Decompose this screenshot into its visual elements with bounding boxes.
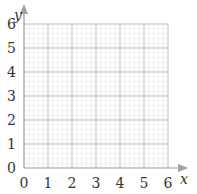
x-tick-label: 2 [68, 175, 77, 191]
y-tick-label: 4 [7, 64, 16, 80]
major-grid [24, 24, 168, 168]
x-tick-label: 3 [92, 175, 101, 191]
y-tick-label: 3 [7, 88, 16, 104]
y-tick-label: 1 [7, 136, 16, 152]
y-tick-labels: 0123456 [7, 16, 16, 176]
x-tick-label: 1 [44, 175, 53, 191]
axes [20, 4, 188, 172]
x-tick-label: 5 [140, 175, 149, 191]
y-tick-label: 2 [7, 112, 16, 128]
coordinate-grid-chart: 0123456 0123456 x y [0, 0, 197, 194]
x-tick-label: 0 [20, 175, 29, 191]
y-tick-label: 0 [7, 160, 16, 176]
y-tick-label: 5 [7, 40, 16, 56]
x-tick-labels: 0123456 [20, 175, 173, 191]
y-axis-label: y [13, 7, 23, 23]
x-tick-label: 6 [164, 175, 173, 191]
x-axis-label: x [180, 171, 188, 187]
x-tick-label: 4 [116, 175, 125, 191]
